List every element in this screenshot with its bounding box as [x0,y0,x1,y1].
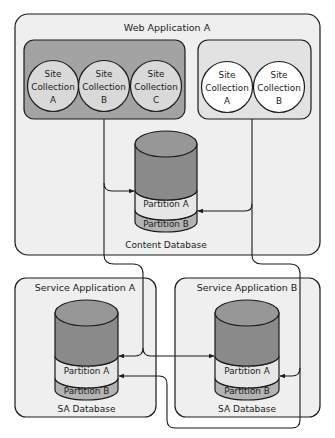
svg-text:Site: Site [45,69,62,79]
web-application-title: Web Application A [124,22,211,33]
service-application-b: Service Application B Partition A Partit… [175,278,320,417]
svg-text:Collection: Collection [257,83,301,93]
service-application-b-title: Service Application B [197,282,298,293]
svg-text:B: B [276,96,282,106]
sa-database-b: Partition A Partition B SA Database [215,300,279,414]
sa-b-database-label: SA Database [218,404,276,414]
service-application-a-title: Service Application A [35,282,136,293]
sa-b-partition-a: Partition A [224,366,269,376]
sa-database-a: Partition A Partition B SA Database [55,300,118,414]
site-collection-circle: Site Collection C [131,61,182,112]
site-collection-group-light: Site Collection A Site Collection B [198,40,311,119]
site-collection-circle: Site Collection B [254,62,305,113]
svg-text:Site: Site [148,69,165,79]
site-collection-circle: Site Collection B [79,61,130,112]
sa-a-partition-a: Partition A [64,366,109,376]
content-db-partition-b: Partition B [143,219,189,229]
svg-text:Collection: Collection [82,82,126,92]
svg-text:Site: Site [219,70,236,80]
sa-a-database-label: SA Database [58,404,116,414]
sa-b-partition-b: Partition B [224,386,270,396]
svg-text:Site: Site [271,70,288,80]
svg-text:Site: Site [96,69,113,79]
svg-text:A: A [50,95,56,105]
sharepoint-partition-diagram: Web Application A Site Collection A Site… [0,0,335,438]
svg-text:Collection: Collection [134,82,178,92]
svg-text:B: B [101,95,107,105]
site-collection-circle: Site Collection A [28,61,79,112]
svg-text:C: C [153,95,159,105]
content-db-label: Content Database [125,240,207,250]
sa-a-partition-b: Partition B [64,386,110,396]
content-db-partition-a: Partition A [143,199,188,209]
svg-text:A: A [224,96,230,106]
svg-text:Collection: Collection [205,83,249,93]
svg-text:Collection: Collection [31,82,75,92]
site-collection-group-dark: Site Collection A Site Collection B Site… [24,40,185,119]
site-collection-circle: Site Collection A [202,62,253,113]
service-application-a: Service Application A Partition A Partit… [15,278,156,417]
